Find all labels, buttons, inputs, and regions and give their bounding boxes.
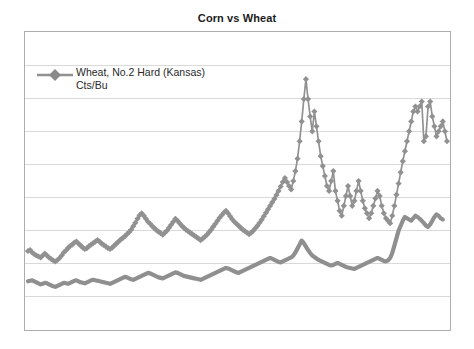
- chart-container: Corn vs Wheat Wheat, No.2 Hard (Kansas) …: [0, 0, 474, 349]
- data-point-marker: [355, 178, 361, 184]
- series-group: [25, 76, 450, 287]
- data-point-marker: [395, 180, 401, 186]
- data-point-marker: [398, 169, 404, 175]
- data-point-marker: [393, 192, 399, 198]
- chart-title: Corn vs Wheat: [0, 12, 474, 24]
- data-point-marker: [345, 183, 351, 189]
- diamond-marker-icon: [36, 67, 74, 83]
- legend-label-group: Wheat, No.2 Hard (Kansas) Cts/Bu: [76, 66, 205, 92]
- data-point-marker: [292, 168, 298, 174]
- data-point-marker: [341, 203, 347, 209]
- chart-legend: Wheat, No.2 Hard (Kansas) Cts/Bu: [32, 64, 209, 94]
- data-point-marker: [347, 193, 353, 199]
- legend-label-line2: Cts/Bu: [76, 79, 205, 92]
- data-point-marker: [332, 188, 338, 194]
- data-point-marker: [358, 188, 364, 194]
- data-point-marker: [391, 203, 397, 209]
- series-line: [28, 79, 447, 261]
- data-point-marker: [313, 123, 319, 129]
- data-point-marker: [444, 138, 450, 144]
- data-point-marker: [360, 198, 366, 204]
- data-point-marker: [294, 156, 300, 162]
- data-point-marker: [290, 178, 296, 184]
- data-point-marker: [400, 158, 406, 164]
- data-point-marker: [431, 123, 437, 129]
- data-point-marker: [309, 128, 315, 134]
- data-point-marker: [320, 163, 326, 169]
- data-point-marker: [311, 108, 317, 114]
- data-point-marker: [297, 138, 303, 144]
- data-point-marker: [330, 168, 336, 174]
- data-point-marker: [429, 113, 435, 119]
- data-point-marker: [389, 213, 395, 219]
- data-point-marker: [406, 128, 412, 134]
- data-point-marker: [315, 138, 321, 144]
- data-point-marker: [318, 153, 324, 159]
- data-point-marker: [305, 96, 311, 102]
- data-point-marker: [370, 203, 376, 209]
- data-point-marker: [379, 203, 385, 209]
- data-point-marker: [307, 113, 313, 119]
- data-point-marker: [299, 118, 305, 124]
- data-point-marker: [303, 76, 309, 82]
- data-point-marker: [404, 138, 410, 144]
- data-point-marker: [322, 173, 328, 179]
- data-point-marker: [402, 148, 408, 154]
- legend-label-line1: Wheat, No.2 Hard (Kansas): [76, 66, 205, 78]
- data-point-marker: [334, 198, 340, 204]
- data-series: [25, 76, 450, 264]
- data-point-marker: [442, 128, 448, 134]
- data-point-marker: [408, 118, 414, 124]
